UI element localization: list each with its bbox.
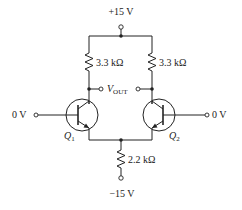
- right-collector-resistor-label: 3.3 kΩ: [159, 57, 186, 68]
- q2-collector: [152, 101, 163, 109]
- q2-label: Q2: [169, 130, 180, 143]
- q2-emitter-arrow-icon: [152, 124, 158, 129]
- circuit-diagram: +15 V 3.3 kΩ 3.3 kΩ VOUT 0 V Q1: [0, 0, 242, 210]
- left-collector-resistor-label: 3.3 kΩ: [96, 57, 123, 68]
- negative-supply-label: −15 V: [109, 188, 135, 199]
- right-output-dot: [150, 87, 154, 91]
- q2-input-terminal: [205, 113, 209, 117]
- positive-supply-terminal: [119, 25, 123, 29]
- vout-label: VOUT: [107, 83, 128, 96]
- q1-label: Q1: [64, 130, 75, 143]
- positive-supply-label: +15 V: [108, 6, 134, 17]
- emitter-resistor-label: 2.2 kΩ: [128, 154, 155, 165]
- top-junction-dot: [119, 34, 123, 38]
- q1-collector: [78, 101, 89, 109]
- left-collector-resistor: [85, 53, 93, 71]
- negative-supply-terminal: [119, 176, 123, 180]
- q2-input-label: 0 V: [212, 109, 227, 120]
- q1-input-terminal: [34, 113, 38, 117]
- emitter-resistor: [117, 150, 125, 168]
- right-collector-resistor: [148, 53, 156, 71]
- q1-input-label: 0 V: [12, 109, 27, 120]
- q1-emitter-arrow-icon: [84, 124, 90, 129]
- right-output-terminal: [136, 87, 140, 91]
- left-output-terminal: [99, 87, 103, 91]
